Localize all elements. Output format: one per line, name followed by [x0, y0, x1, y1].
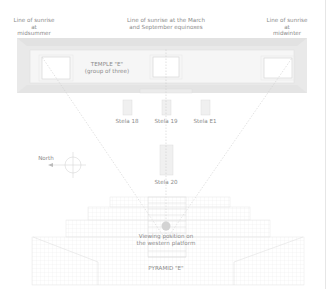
stelae [123, 100, 210, 175]
label-stela-e1: Stela E1 [190, 118, 220, 125]
viewing-position-marker [162, 222, 171, 231]
label-viewing-position: Viewing position on the western platform [128, 233, 204, 246]
temple-subtitle: (group of three) [80, 68, 134, 75]
pyramid-title: PYRAMID "E" [136, 265, 196, 272]
label-sunrise-midwinter: Line of sunrise at midwinter [265, 17, 309, 37]
page-edge-divider [325, 0, 326, 289]
temple-south-building [264, 58, 292, 78]
temple-platform [17, 38, 307, 93]
stela-e1-marker [201, 100, 210, 115]
label-stela-20: Stela 20 [151, 179, 181, 186]
label-sunrise-equinox: Line of sunrise at the March and Septemb… [120, 17, 212, 30]
label-stela-19: Stela 19 [151, 118, 181, 125]
stela-20-marker [160, 145, 173, 175]
label-stela-18: Stela 18 [112, 118, 142, 125]
stela-18-marker [123, 100, 132, 115]
stela-19-marker [162, 100, 171, 115]
temple-north-building [42, 57, 70, 79]
compass-north-label: North [33, 155, 59, 162]
label-sunrise-midsummer: Line of sunrise at midsummer [12, 17, 56, 37]
temple-title: TEMPLE "E" [80, 61, 134, 68]
